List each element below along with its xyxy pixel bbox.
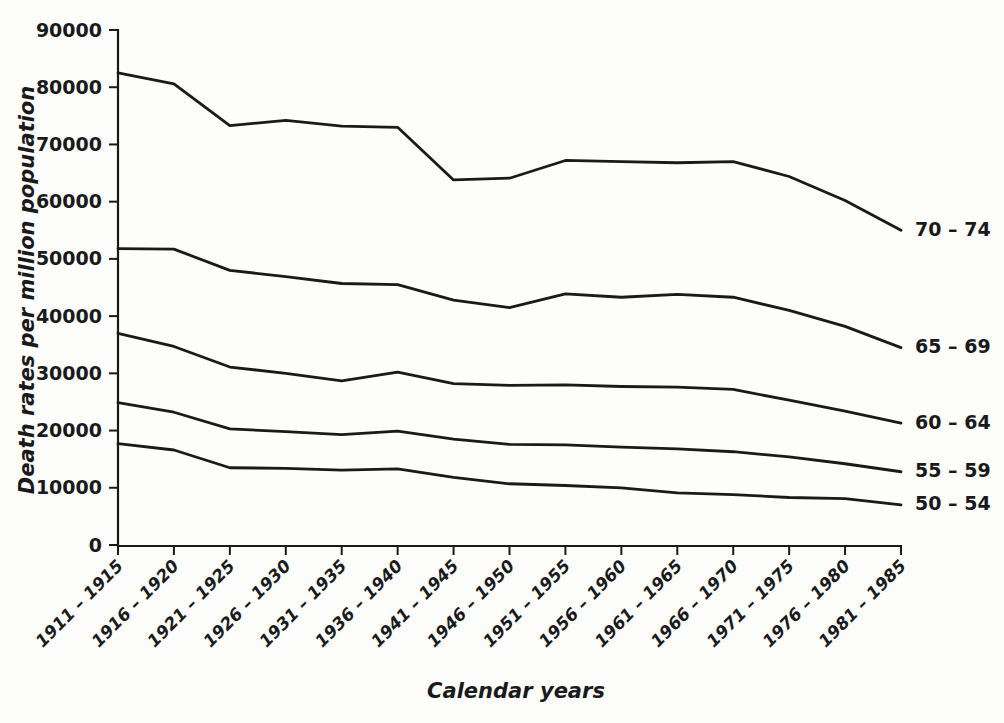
y-tick-label: 60000 — [36, 190, 102, 212]
y-tick-label: 30000 — [36, 362, 102, 384]
y-tick-label: 40000 — [36, 305, 102, 327]
series-line — [118, 444, 901, 505]
series-end-label: 70 – 74 — [915, 218, 991, 240]
series-line — [118, 73, 901, 230]
y-tick-label: 90000 — [36, 19, 102, 41]
y-axis-tick-labels: 0100002000030000400005000060000700008000… — [36, 19, 102, 556]
series-line — [118, 403, 901, 472]
chart-figure: 70 – 7465 – 6960 – 6455 – 5950 – 54 0100… — [0, 0, 1004, 723]
series-line — [118, 333, 901, 423]
y-tick-label: 80000 — [36, 76, 102, 98]
y-tick-label: 20000 — [36, 419, 102, 441]
series-end-label: 65 – 69 — [915, 335, 991, 357]
line-chart-canvas: 70 – 7465 – 6960 – 6455 – 5950 – 54 0100… — [0, 0, 1004, 723]
y-tick-label: 10000 — [36, 476, 102, 498]
x-axis-tick-labels: 1911 – 19151916 – 19201921 – 19251926 – … — [31, 556, 909, 652]
y-axis-ticks — [109, 30, 118, 545]
series-lines-group — [118, 73, 901, 505]
x-axis-title: Calendar years — [427, 679, 605, 703]
series-labels-group: 70 – 7465 – 6960 – 6455 – 5950 – 54 — [915, 218, 991, 515]
y-axis-title: Death rates per million population — [15, 86, 39, 495]
y-tick-label: 50000 — [36, 247, 102, 269]
series-end-label: 55 – 59 — [915, 459, 991, 481]
series-end-label: 50 – 54 — [915, 492, 991, 514]
series-end-label: 60 – 64 — [915, 411, 991, 433]
y-tick-label: 0 — [89, 534, 102, 556]
series-line — [118, 249, 901, 348]
y-tick-label: 70000 — [36, 133, 102, 155]
